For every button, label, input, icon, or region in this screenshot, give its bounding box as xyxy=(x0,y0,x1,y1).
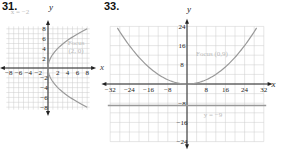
svg-text:−6: −6 xyxy=(15,69,23,77)
svg-text:−32: −32 xyxy=(105,86,116,94)
svg-text:y: y xyxy=(48,2,53,12)
svg-text:−16: −16 xyxy=(177,119,188,127)
svg-text:−8: −8 xyxy=(164,86,172,94)
svg-text:y = −9: y = −9 xyxy=(204,111,223,119)
svg-text:Focus: Focus xyxy=(68,39,85,47)
svg-text:8: 8 xyxy=(85,69,89,77)
svg-text:x = −2: x = −2 xyxy=(11,8,30,16)
svg-text:6: 6 xyxy=(76,69,80,77)
svg-text:2: 2 xyxy=(42,55,46,63)
svg-text:8: 8 xyxy=(204,86,208,94)
graphs: −8−6−4−22468−8−6−4−22468yx = −2Focus(2, … xyxy=(0,0,281,153)
svg-text:−8: −8 xyxy=(5,69,13,77)
svg-text:32: 32 xyxy=(260,86,268,94)
svg-text:−24: −24 xyxy=(177,138,188,146)
svg-text:6: 6 xyxy=(42,35,46,43)
svg-text:(2, 0): (2, 0) xyxy=(68,47,84,55)
svg-text:−6: −6 xyxy=(40,94,48,102)
svg-text:2: 2 xyxy=(56,69,60,77)
svg-text:−16: −16 xyxy=(143,86,154,94)
svg-text:4: 4 xyxy=(66,69,70,77)
svg-text:4: 4 xyxy=(42,45,46,53)
svg-text:−24: −24 xyxy=(124,86,135,94)
svg-text:−8: −8 xyxy=(40,104,48,112)
svg-text:x: x xyxy=(99,62,104,72)
svg-text:x: x xyxy=(270,79,275,89)
svg-text:8: 8 xyxy=(180,61,184,69)
svg-text:24: 24 xyxy=(179,23,187,31)
svg-text:16: 16 xyxy=(222,86,230,94)
svg-text:−4: −4 xyxy=(25,69,33,77)
svg-text:16: 16 xyxy=(179,42,187,50)
svg-text:24: 24 xyxy=(241,86,249,94)
svg-text:−8: −8 xyxy=(178,100,186,108)
svg-text:−4: −4 xyxy=(40,84,48,92)
svg-text:y: y xyxy=(186,4,191,14)
svg-text:−2: −2 xyxy=(40,74,48,82)
svg-text:Focus (0,9): Focus (0,9) xyxy=(196,50,229,58)
svg-text:8: 8 xyxy=(42,25,46,33)
